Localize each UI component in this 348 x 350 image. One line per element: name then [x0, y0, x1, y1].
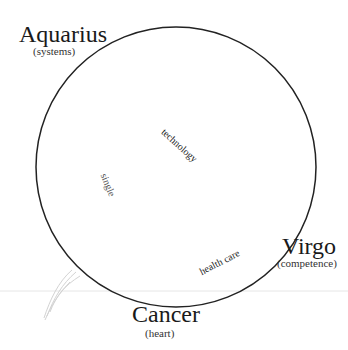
- sign-aquarius-keyword: (systems): [33, 45, 75, 57]
- sign-cancer-keyword: (heart): [145, 327, 174, 339]
- sign-virgo-name: Virgo: [282, 234, 336, 258]
- feather-sketch: [44, 270, 80, 320]
- sign-virgo-keyword: (competence): [277, 257, 337, 269]
- zodiac-circle: [36, 27, 316, 307]
- sign-aquarius-name: Aquarius: [19, 22, 107, 46]
- sign-cancer-name: Cancer: [132, 302, 200, 326]
